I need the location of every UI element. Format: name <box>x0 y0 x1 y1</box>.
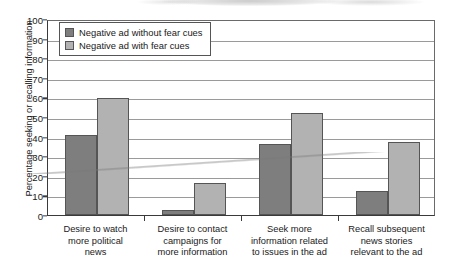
y-axis-tick-label: 70 <box>13 73 43 84</box>
x-axis-category-label-line: campaigns for <box>144 236 241 248</box>
x-axis-category-label-line: Seek more <box>241 224 338 236</box>
x-axis-category-label-line: relevant to the ad <box>338 247 435 259</box>
y-axis-tick-mark <box>43 157 47 158</box>
x-axis-group-separator <box>144 216 145 221</box>
x-axis-category-label: Desire to watchmore politicalnews <box>47 224 144 259</box>
legend-item-without-fear-cues: Negative ad without fear cues <box>65 26 203 39</box>
y-axis-tick-mark <box>43 137 47 138</box>
gridline <box>48 80 434 81</box>
chart-legend: Negative ad without fear cues Negative a… <box>59 22 211 56</box>
y-axis-tick-label: 30 <box>13 152 43 163</box>
y-axis-tick-mark <box>43 78 47 79</box>
x-axis-category-label: Recall subsequentnews storiesrelevant to… <box>338 224 435 259</box>
bar-chart: Percentage seeking or recalling informat… <box>0 0 454 275</box>
x-axis-category-label-line: more political <box>47 236 144 248</box>
bar-without-fear-cues-group-1 <box>65 135 97 215</box>
y-axis-tick-label: 60 <box>13 93 43 104</box>
y-axis-tick-label: 50 <box>13 113 43 124</box>
y-axis-tick-label: 20 <box>13 171 43 182</box>
x-axis-category-label-line: information related <box>241 236 338 248</box>
y-axis-tick-mark <box>43 39 47 40</box>
y-axis-tick-mark <box>43 117 47 118</box>
x-axis-group-separator <box>338 216 339 221</box>
y-axis-tick-mark <box>43 196 47 197</box>
x-axis-category-label-line: news <box>47 247 144 259</box>
y-axis-tick-label: 40 <box>13 132 43 143</box>
y-axis-tick-label: 0 <box>13 211 43 222</box>
x-axis-category-label: Seek moreinformation relatedto issues in… <box>241 224 338 259</box>
legend-item-with-fear-cues: Negative ad with fear cues <box>65 39 203 52</box>
legend-label-without-fear-cues: Negative ad without fear cues <box>79 27 203 38</box>
bar-with-fear-cues-group-2 <box>194 183 226 215</box>
y-axis-tick-label: 10 <box>13 191 43 202</box>
bar-with-fear-cues-group-3 <box>291 113 323 215</box>
y-axis-tick-label: 100 <box>13 15 43 26</box>
x-axis-category-label-line: Recall subsequent <box>338 224 435 236</box>
y-axis-tick-mark <box>43 176 47 177</box>
bar-without-fear-cues-group-2 <box>162 210 194 215</box>
x-axis-category-label-line: Desire to watch <box>47 224 144 236</box>
y-axis-tick-label: 80 <box>13 54 43 65</box>
y-axis-tick-mark <box>43 98 47 99</box>
x-axis-category-label-line: to issues in the ad <box>241 247 338 259</box>
bar-without-fear-cues-group-4 <box>356 191 388 216</box>
x-axis-category-label-line: Desire to contact <box>144 224 241 236</box>
x-axis-group-separator <box>241 216 242 221</box>
x-axis-category-label-line: news stories <box>338 236 435 248</box>
y-axis-tick-label: 90 <box>13 34 43 45</box>
y-axis-tick-mark <box>43 215 47 216</box>
x-axis-category-label: Desire to contactcampaigns formore infor… <box>144 224 241 259</box>
legend-swatch-icon-with-fear-cues <box>65 41 74 50</box>
legend-swatch-icon-without-fear-cues <box>65 28 74 37</box>
legend-label-with-fear-cues: Negative ad with fear cues <box>79 40 189 51</box>
x-axis-category-label-line: more information <box>144 247 241 259</box>
y-axis-tick-mark <box>43 19 47 20</box>
y-axis-tick-mark <box>43 59 47 60</box>
gridline <box>48 60 434 61</box>
bar-with-fear-cues-group-1 <box>97 98 129 215</box>
bar-without-fear-cues-group-3 <box>259 144 291 215</box>
bar-with-fear-cues-group-4 <box>388 142 420 216</box>
